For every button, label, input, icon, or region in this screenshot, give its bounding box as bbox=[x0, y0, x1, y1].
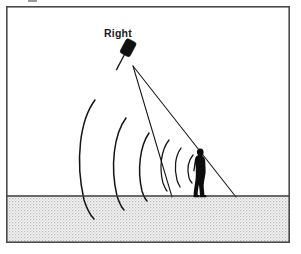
speaker-dispersion-figure: Right bbox=[0, 0, 301, 254]
ground-surface bbox=[7, 196, 289, 242]
diagram-canvas: Right bbox=[0, 0, 301, 254]
scan-artifact bbox=[28, 0, 37, 2]
speaker-label: Right bbox=[104, 27, 132, 39]
